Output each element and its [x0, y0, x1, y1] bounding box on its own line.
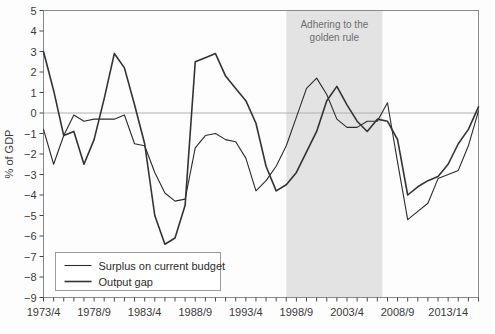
y-tick-label: −7	[24, 251, 37, 263]
x-tick-label: 1983/4	[128, 306, 162, 318]
y-tick-label: 5	[30, 5, 36, 17]
y-tick-label: 0	[30, 107, 36, 119]
x-tick-label: 2003/4	[330, 306, 364, 318]
x-tick-label: 1998/9	[280, 306, 314, 318]
y-tick-label: −2	[24, 148, 37, 160]
x-tick-label: 2013/14	[428, 306, 468, 318]
x-tick-label: 2008/9	[381, 306, 415, 318]
y-tick-label: −5	[24, 210, 37, 222]
y-tick-label: 2	[30, 66, 36, 78]
y-tick-label: 4	[30, 25, 36, 37]
y-tick-label: −4	[24, 189, 37, 201]
x-tick-label: 1993/4	[229, 306, 263, 318]
golden-rule-band	[286, 11, 382, 298]
y-tick-label: −9	[24, 292, 37, 304]
shaded-band-layer	[286, 11, 382, 298]
y-tick-label: −8	[24, 271, 37, 283]
band-annotation-line: Adhering to the	[300, 19, 368, 30]
band-annotation-line: golden rule	[310, 32, 360, 43]
x-tick-label: 1978/9	[77, 306, 111, 318]
y-axis-title: % of GDP	[3, 130, 15, 179]
y-tick-label: −6	[24, 230, 37, 242]
chart-legend: Surplus on current budgetOutput gap	[56, 253, 226, 291]
x-tick-label: 1988/9	[178, 306, 212, 318]
legend-label-2: Output gap	[99, 276, 153, 288]
legend-label-1: Surplus on current budget	[99, 260, 226, 272]
y-tick-label: 1	[30, 87, 36, 99]
y-tick-label: −3	[24, 169, 37, 181]
economic-chart: 543210−1−2−3−4−5−6−7−8−9 1973/41978/9198…	[0, 0, 495, 334]
chart-container: 543210−1−2−3−4−5−6−7−8−9 1973/41978/9198…	[0, 0, 495, 334]
y-tick-label: 3	[30, 46, 36, 58]
x-tick-label: 1973/4	[27, 306, 61, 318]
y-tick-label: −1	[24, 128, 37, 140]
